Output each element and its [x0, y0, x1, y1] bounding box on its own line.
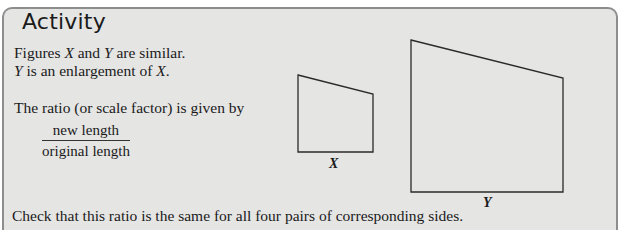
figure-x-label: X — [329, 156, 338, 172]
figure-y-shape — [411, 40, 563, 192]
figures-diagram — [0, 0, 624, 230]
figure-x-shape — [298, 75, 373, 152]
check-instruction: Check that this ratio is the same for al… — [12, 207, 463, 225]
figure-y-label: Y — [483, 195, 492, 211]
